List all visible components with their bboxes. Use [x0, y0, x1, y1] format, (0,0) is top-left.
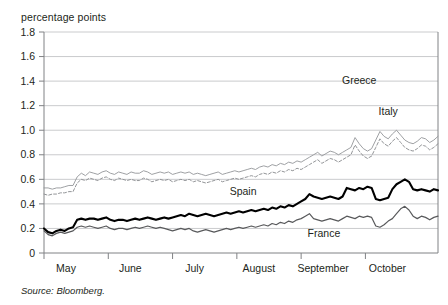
y-axis-unit-label: percentage points [21, 11, 106, 23]
series-label-greece: Greece [342, 74, 377, 86]
y-tick-label: 0.4 [20, 198, 35, 210]
series-line-greece [44, 130, 438, 189]
y-tick-label: 0.8 [20, 148, 35, 160]
line-chart-plot: 00.20.40.60.81.01.21.41.61.8MayJuneJulyA… [0, 0, 448, 305]
series-label-italy: Italy [379, 105, 399, 117]
y-tick-label: 1.8 [20, 26, 35, 38]
x-tick-label: September [297, 262, 349, 274]
source-text: Bloomberg. [56, 285, 105, 296]
series-label-france: France [308, 227, 341, 239]
series-line-france [44, 206, 438, 235]
series-label-spain: Spain [230, 185, 257, 197]
x-tick-label: October [369, 262, 407, 274]
y-tick-label: 0.6 [20, 173, 35, 185]
x-tick-label: August [243, 262, 276, 274]
x-tick-label: July [185, 262, 204, 274]
y-tick-label: 0.2 [20, 222, 35, 234]
y-tick-label: 0 [29, 247, 35, 259]
x-tick-label: May [56, 262, 77, 274]
source-note: Source: Bloomberg. [21, 285, 105, 296]
y-tick-label: 1.4 [20, 75, 35, 87]
chart-figure: percentage points 00.20.40.60.81.01.21.4… [0, 0, 448, 305]
y-tick-label: 1.2 [20, 99, 35, 111]
source-label: Source: [21, 285, 54, 296]
y-tick-label: 1.6 [20, 50, 35, 62]
y-tick-label: 1.0 [20, 124, 35, 136]
x-tick-label: June [119, 262, 142, 274]
